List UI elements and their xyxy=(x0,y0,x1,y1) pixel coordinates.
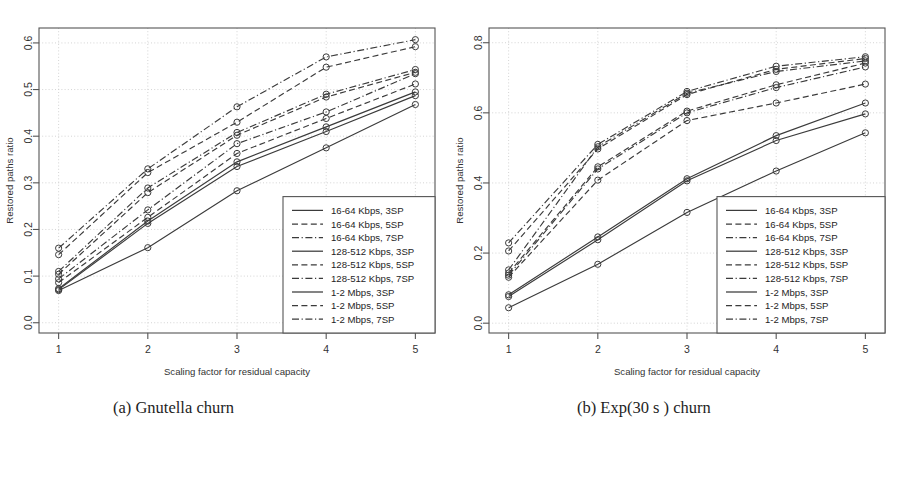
legend: 16-64 Kbps, 3SP16-64 Kbps, 5SP16-64 Kbps… xyxy=(283,197,435,333)
x-axis-title: Scaling factor for residual capacity xyxy=(614,366,760,377)
legend-label-0: 16-64 Kbps, 3SP xyxy=(765,205,838,216)
x-axis-title: Scaling factor for residual capacity xyxy=(164,366,310,377)
y-tick-label: 0.4 xyxy=(472,176,484,191)
x-tick-label: 4 xyxy=(323,343,329,355)
y-tick-label: 0.0 xyxy=(22,315,34,330)
x-tick-label: 3 xyxy=(684,343,690,355)
subfigure-a-chart: 123450.00.10.20.30.40.50.6Scaling factor… xyxy=(0,0,450,400)
legend-label-7: 1-2 Mbps, 5SP xyxy=(331,300,394,311)
legend-label-4: 128-512 Kbps, 5SP xyxy=(765,259,848,270)
x-tick-label: 1 xyxy=(506,343,512,355)
x-tick-label: 5 xyxy=(862,343,868,355)
y-tick-label: 0.4 xyxy=(22,129,34,144)
y-tick-label: 0.2 xyxy=(22,222,34,237)
y-tick-label: 0.6 xyxy=(22,35,34,50)
legend-label-3: 128-512 Kbps, 3SP xyxy=(765,246,848,257)
subfigure-b-chart: 123450.00.20.40.60.8Scaling factor for r… xyxy=(450,0,900,400)
legend-label-0: 16-64 Kbps, 3SP xyxy=(331,205,404,216)
legend-label-3: 128-512 Kbps, 3SP xyxy=(331,246,414,257)
legend-label-4: 128-512 Kbps, 5SP xyxy=(331,259,414,270)
y-axis-title: Restored paths ratio xyxy=(4,137,15,223)
legend-label-6: 1-2 Mbps, 3SP xyxy=(331,287,394,298)
x-tick-label: 3 xyxy=(234,343,240,355)
legend-label-5: 128-512 Kbps, 7SP xyxy=(331,273,414,284)
y-tick-label: 0.3 xyxy=(22,175,34,190)
legend-label-5: 128-512 Kbps, 7SP xyxy=(765,273,848,284)
legend-label-6: 1-2 Mbps, 3SP xyxy=(765,287,828,298)
legend-label-1: 16-64 Kbps, 5SP xyxy=(331,219,404,230)
legend-label-2: 16-64 Kbps, 7SP xyxy=(765,232,838,243)
y-tick-label: 0.1 xyxy=(22,269,34,284)
caption-subfigure-a: (a) Gnutella churn xyxy=(113,398,234,418)
y-tick-label: 0.8 xyxy=(472,35,484,50)
legend-label-1: 16-64 Kbps, 5SP xyxy=(765,219,838,230)
legend: 16-64 Kbps, 3SP16-64 Kbps, 5SP16-64 Kbps… xyxy=(717,197,885,333)
y-tick-label: 0.6 xyxy=(472,105,484,120)
x-tick-label: 2 xyxy=(145,343,151,355)
legend-label-8: 1-2 Mbps, 7SP xyxy=(765,314,828,325)
caption-row: (a) Gnutella churn (b) Exp(30 s ) churn xyxy=(0,398,901,458)
y-tick-label: 0.0 xyxy=(472,316,484,331)
legend-label-7: 1-2 Mbps, 5SP xyxy=(765,300,828,311)
x-tick-label: 2 xyxy=(595,343,601,355)
x-tick-label: 1 xyxy=(56,343,62,355)
legend-label-2: 16-64 Kbps, 7SP xyxy=(331,232,404,243)
caption-subfigure-b: (b) Exp(30 s ) churn xyxy=(577,398,711,418)
legend-label-8: 1-2 Mbps, 7SP xyxy=(331,314,394,325)
y-axis-title: Restored paths ratio xyxy=(454,137,465,223)
x-tick-label: 4 xyxy=(773,343,779,355)
y-tick-label: 0.5 xyxy=(22,82,34,97)
x-tick-label: 5 xyxy=(412,343,418,355)
figure-root: 123450.00.10.20.30.40.50.6Scaling factor… xyxy=(0,0,901,480)
y-tick-label: 0.2 xyxy=(472,246,484,261)
